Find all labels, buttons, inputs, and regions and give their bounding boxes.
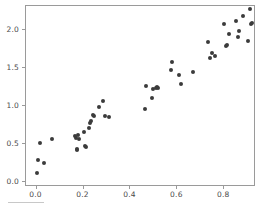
x-axis-tick [83, 186, 84, 189]
x-axis-tick-label: 0.8 [217, 190, 230, 199]
y-axis-tick [22, 105, 25, 106]
x-axis-tick-label: 0.6 [170, 190, 183, 199]
y-axis-tick-label: 0.0 [3, 176, 19, 185]
x-axis-tick [176, 186, 177, 189]
x-axis-tick-label: 0.4 [123, 190, 136, 199]
x-axis-tick-label: 0.2 [76, 190, 89, 199]
y-axis-tick-label: 1.5 [3, 63, 19, 72]
x-axis-tick [36, 186, 37, 189]
y-axis-tick [22, 67, 25, 68]
y-axis-tick-label: 2.0 [3, 25, 19, 34]
x-axis-tick [223, 186, 224, 189]
x-axis-tick-label: 0.0 [29, 190, 42, 199]
scatter-plot-figure: 0.00.20.40.60.80.00.51.01.52.0 [0, 0, 264, 208]
cropped-caption-text [52, 200, 172, 206]
y-axis-tick-label: 1.0 [3, 101, 19, 110]
plot-axes-frame [25, 5, 255, 186]
y-axis-tick [22, 29, 25, 30]
y-axis-tick [22, 143, 25, 144]
x-axis-tick [129, 186, 130, 189]
cropped-caption-rule [8, 202, 44, 203]
y-axis-tick-label: 0.5 [3, 138, 19, 147]
y-axis-tick [22, 181, 25, 182]
